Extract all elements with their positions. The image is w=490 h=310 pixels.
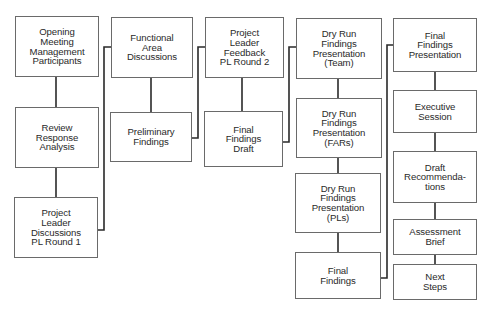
step-label: Preliminary Findings	[128, 127, 175, 146]
step-box-dry-fars: Dry Run Findings Presentation (FARs)	[296, 98, 382, 158]
connector-elbow-final-findings-to-final-pres	[381, 45, 393, 278]
step-box-exec: Executive Session	[393, 90, 477, 133]
step-box-next: Next Steps	[393, 264, 477, 300]
step-box-review: Review Response Analysis	[15, 107, 99, 168]
step-label: Next Steps	[423, 272, 447, 291]
step-label: Assessment Brief	[409, 227, 460, 246]
step-box-final-pres: Final Findings Presentation	[393, 18, 477, 72]
step-box-draft-rec: Draft Recommenda- tions	[393, 151, 477, 203]
step-label: Project Leader Feedback PL Round 2	[220, 28, 269, 66]
step-label: Functional Area Discussions	[127, 33, 177, 62]
step-box-pl1: Project Leader Discussions PL Round 1	[14, 197, 98, 258]
step-label: Draft Recommenda- tions	[404, 163, 466, 192]
step-label: Dry Run Findings Presentation (Team)	[313, 29, 366, 67]
step-label: Final Findings Draft	[226, 125, 261, 154]
step-box-dry-pls: Dry Run Findings Presentation (PLs)	[295, 173, 381, 233]
step-label: Opening Meeting Management Participants	[30, 27, 85, 65]
connector-elbow-draft-to-dry-team	[283, 47, 296, 142]
step-box-pl2: Project Leader Feedback PL Round 2	[205, 17, 284, 78]
step-label: Dry Run Findings Presentation (FARs)	[313, 109, 366, 147]
step-box-preliminary: Preliminary Findings	[110, 112, 192, 162]
step-box-opening: Opening Meeting Management Participants	[15, 16, 99, 77]
step-label: Dry Run Findings Presentation (PLs)	[312, 184, 365, 222]
step-label: Project Leader Discussions PL Round 1	[31, 208, 81, 246]
step-box-dry-team: Dry Run Findings Presentation (Team)	[296, 18, 382, 79]
step-label: Executive Session	[415, 102, 456, 121]
step-box-draft: Final Findings Draft	[204, 111, 283, 167]
step-box-functional: Functional Area Discussions	[111, 17, 193, 78]
step-box-brief: Assessment Brief	[393, 219, 477, 255]
process-flow-diagram: Opening Meeting Management ParticipantsR…	[0, 0, 490, 310]
step-label: Final Findings	[320, 266, 355, 285]
step-label: Review Response Analysis	[36, 123, 78, 152]
step-box-final-findings: Final Findings	[295, 252, 381, 299]
step-label: Final Findings Presentation	[409, 31, 462, 60]
